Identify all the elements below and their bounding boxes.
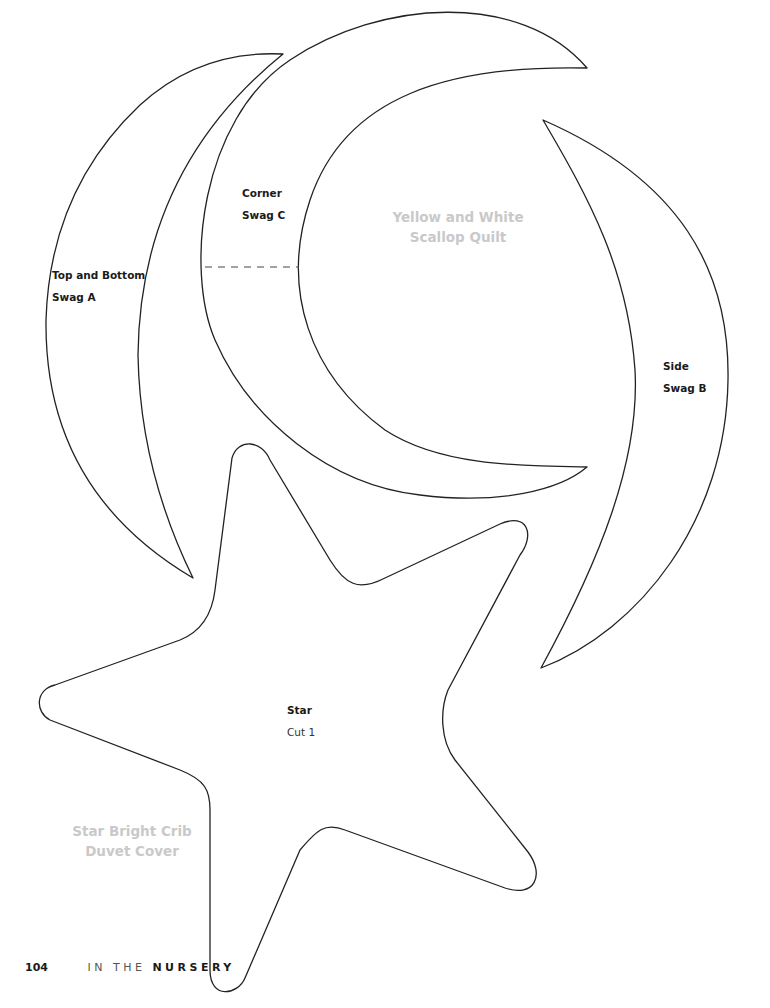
section-prefix: IN THE: [87, 961, 145, 974]
project-title-line1: Yellow and White: [388, 207, 528, 227]
star-label-line1: Star: [287, 699, 315, 721]
project-title-crib-duvet: Star Bright Crib Duvet Cover: [62, 821, 202, 861]
section-title: IN THE NURSERY: [87, 961, 234, 974]
swag-b-label: Side Swag B: [663, 355, 707, 399]
section-name: NURSERY: [152, 961, 234, 974]
star-label-line2: Cut 1: [287, 721, 315, 743]
project-title-scallop-quilt: Yellow and White Scallop Quilt: [388, 207, 528, 247]
swag-c-label-line2: Swag C: [242, 204, 285, 226]
swag-b-label-line1: Side: [663, 355, 707, 377]
swag-a-label-line1: Top and Bottom: [52, 264, 145, 286]
page-number: 104: [25, 961, 48, 974]
swag-a-label-line2: Swag A: [52, 286, 145, 308]
project-title-line2: Duvet Cover: [62, 841, 202, 861]
swag-c-outline: [201, 12, 587, 498]
swag-a-label: Top and Bottom Swag A: [52, 264, 145, 308]
project-title-line1: Star Bright Crib: [62, 821, 202, 841]
page-footer: 104 IN THE NURSERY: [25, 961, 235, 974]
star-label: Star Cut 1: [287, 699, 315, 743]
swag-b-label-line2: Swag B: [663, 377, 707, 399]
swag-c-label: Corner Swag C: [242, 182, 285, 226]
swag-c-label-line1: Corner: [242, 182, 285, 204]
project-title-line2: Scallop Quilt: [388, 227, 528, 247]
